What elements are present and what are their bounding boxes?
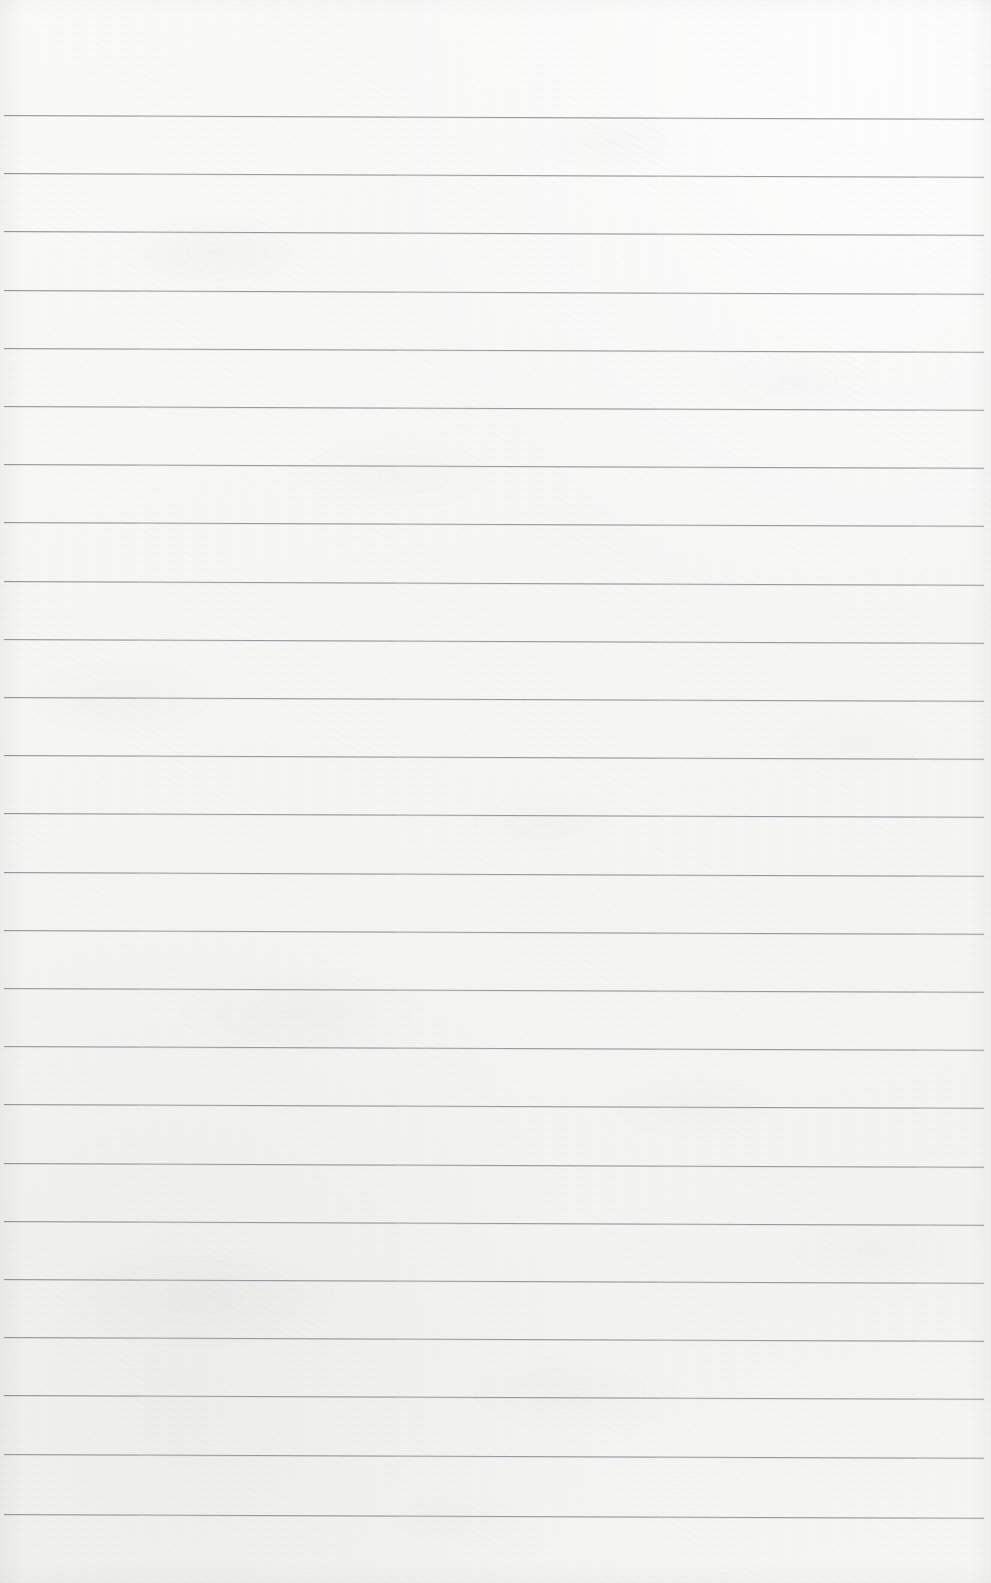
- rule-line: [4, 522, 984, 527]
- rule-line: [4, 639, 984, 644]
- rule-line: [4, 115, 984, 120]
- rule-line: [4, 290, 984, 295]
- rule-line: [4, 1279, 984, 1284]
- rule-line: [4, 872, 984, 877]
- rule-line: [4, 813, 984, 818]
- rule-line: [4, 464, 984, 469]
- rule-line: [4, 755, 984, 760]
- ruled-lines-group: [0, 0, 991, 1583]
- rule-line: [4, 988, 984, 993]
- rule-line: [4, 930, 984, 935]
- rule-line: [4, 1337, 984, 1342]
- rule-line: [4, 1395, 984, 1400]
- rule-line: [4, 581, 984, 586]
- rule-line: [4, 1163, 984, 1168]
- rule-line: [4, 406, 984, 411]
- rule-line: [4, 348, 984, 353]
- rule-line: [4, 173, 984, 178]
- rule-line: [4, 1454, 984, 1459]
- rule-line: [4, 1221, 984, 1226]
- rule-line: [4, 1046, 984, 1051]
- rule-line: [4, 1104, 984, 1109]
- rule-line: [4, 1514, 984, 1519]
- rule-line: [4, 231, 984, 236]
- rule-line: [4, 697, 984, 702]
- notebook-page: [0, 0, 991, 1583]
